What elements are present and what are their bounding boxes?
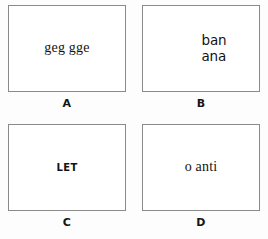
panel-label-b: B <box>197 98 206 109</box>
panel-text-d: o anti <box>185 160 218 175</box>
panel-cell-d: o anti D <box>134 119 268 239</box>
panel-cell-c: LET C <box>0 119 134 239</box>
panel-text-c: LET <box>56 162 77 173</box>
panel-label-c: C <box>63 217 71 228</box>
panel-text-a: geg gge <box>44 41 89 56</box>
panel-figure: geg gge A ban ana B LET C o anti D <box>0 0 268 239</box>
panel-grid: geg gge A ban ana B LET C o anti D <box>0 0 268 239</box>
panel-text-b: ban ana <box>201 33 226 63</box>
panel-box-b: ban ana <box>142 5 260 92</box>
panel-box-d: o anti <box>142 124 260 211</box>
panel-box-a: geg gge <box>8 5 126 92</box>
panel-label-a: A <box>63 98 72 109</box>
panel-label-d: D <box>196 217 205 228</box>
panel-cell-a: geg gge A <box>0 0 134 119</box>
panel-cell-b: ban ana B <box>134 0 268 119</box>
panel-box-c: LET <box>8 124 126 211</box>
